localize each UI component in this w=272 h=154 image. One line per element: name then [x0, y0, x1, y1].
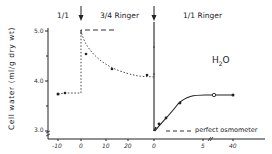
- y-tick-3: 3.0: [34, 127, 44, 133]
- x-tick-10: 10: [102, 143, 110, 149]
- y-axis-label: Cell water (ml/g dry wt): [7, 24, 16, 134]
- x-tick-40: 40: [229, 143, 237, 149]
- x-tick-20: 20: [124, 143, 132, 149]
- h2o-annotation: H2O: [212, 55, 230, 67]
- segment-label-3-4-ringer: 3/4 Ringer: [100, 12, 139, 20]
- decay-series: [81, 30, 154, 77]
- baseline-series: [58, 93, 81, 94]
- x-tick-minus10: -10: [52, 143, 62, 149]
- segment-label-1-1-ringer: 1/1 Ringer: [183, 12, 222, 20]
- x-tick-0a: 0: [79, 143, 83, 149]
- perfect-osmometer-line-1: [81, 30, 114, 34]
- cell-water-chart: Cell water (ml/g dry wt) 5.0 4.0 3.0 -10…: [0, 0, 272, 154]
- segment-label-1-1: 1/1: [57, 12, 69, 20]
- perfect-osmometer-label: perfect osmometer: [195, 127, 258, 134]
- x-tick-0b: 0: [152, 143, 156, 149]
- y-tick-5: 5.0: [34, 28, 44, 34]
- x-tick-5: 5: [201, 143, 205, 149]
- y-tick-4: 4.0: [34, 78, 44, 84]
